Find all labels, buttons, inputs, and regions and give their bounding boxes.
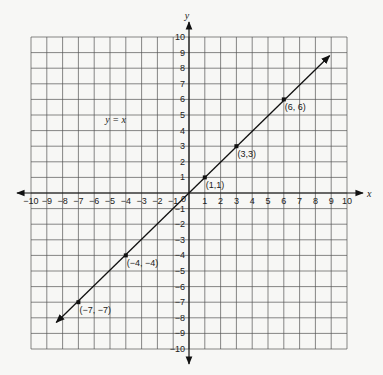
point-label: (3,3): [237, 149, 256, 159]
data-point: [76, 300, 80, 304]
coordinate-plane: −10−9−8−7−6−5−4−3−2−112345678910−10−9−8−…: [0, 0, 383, 375]
x-tick-label: 2: [218, 196, 223, 206]
y-tick-label: 1: [180, 172, 185, 182]
data-point: [282, 97, 286, 101]
y-tick-label: −9: [175, 328, 185, 338]
y-tick-label: −2: [175, 219, 185, 229]
x-tick-label: 4: [250, 196, 255, 206]
y-tick-label: 4: [180, 126, 185, 136]
line-y-equals-x: (−7, −7)(−4, −4)(1,1)(3,3)(6, 6): [56, 56, 329, 323]
x-tick-label: −8: [57, 196, 67, 206]
x-tick-label: −9: [42, 196, 52, 206]
data-point: [234, 144, 238, 148]
x-tick-label: −6: [89, 196, 99, 206]
x-tick-label: −4: [121, 196, 131, 206]
y-tick-label: 6: [180, 94, 185, 104]
y-tick-label: 7: [180, 79, 185, 89]
point-label: (6, 6): [285, 102, 306, 112]
x-tick-label: −2: [152, 196, 162, 206]
data-point: [203, 175, 207, 179]
x-tick-label: −3: [136, 196, 146, 206]
x-tick-label: 10: [342, 196, 352, 206]
equation-label: y = x: [104, 114, 126, 125]
y-axis-label: y: [184, 10, 190, 21]
x-tick-label: 7: [297, 196, 302, 206]
x-tick-label: −7: [73, 196, 83, 206]
x-tick-label: 1: [202, 196, 207, 206]
y-tick-label: 8: [180, 63, 185, 73]
y-tick-label: −7: [175, 297, 185, 307]
x-tick-label: −10: [23, 196, 38, 206]
x-tick-label: 5: [265, 196, 270, 206]
x-axis-label: x: [366, 188, 372, 199]
x-tick-label: 6: [281, 196, 286, 206]
point-label: (−7, −7): [79, 305, 111, 315]
x-tick-label: 3: [234, 196, 239, 206]
y-tick-label: −3: [175, 235, 185, 245]
data-point: [124, 253, 128, 257]
x-tick-label: −5: [105, 196, 115, 206]
y-tick-label: 9: [180, 48, 185, 58]
x-tick-label: 8: [313, 196, 318, 206]
y-tick-label: −6: [175, 282, 185, 292]
y-tick-label: 10: [175, 32, 185, 42]
y-tick-label: 3: [180, 141, 185, 151]
y-tick-label: −4: [175, 250, 185, 260]
point-label: (−4, −4): [127, 258, 159, 268]
y-tick-label: 2: [180, 157, 185, 167]
x-tick-label: 9: [329, 196, 334, 206]
y-tick-label: −5: [175, 266, 185, 276]
y-tick-label: −8: [175, 313, 185, 323]
y-tick-label: 5: [180, 110, 185, 120]
plot-line: [56, 56, 329, 323]
point-label: (1,1): [206, 180, 225, 190]
y-tick-label: −10: [170, 344, 185, 354]
